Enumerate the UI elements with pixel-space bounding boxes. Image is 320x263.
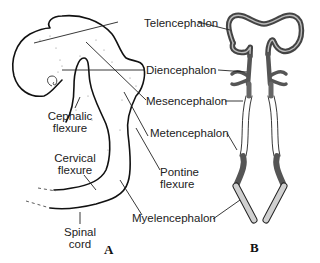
label-diencephalon: Diencephalon bbox=[146, 64, 216, 76]
label-spinal-line2: cord bbox=[60, 238, 100, 250]
panel-label-b: B bbox=[250, 240, 259, 256]
label-spinal-line1: Spinal bbox=[60, 226, 100, 238]
label-mesencephalon: Mesencephalon bbox=[146, 95, 227, 107]
label-pontine-line1: Pontine bbox=[160, 166, 199, 178]
label-myelencephalon: Myelencephalon bbox=[132, 212, 216, 224]
label-cervical-line1: Cervical bbox=[50, 152, 100, 164]
label-cephalic-flexure: Cephalic flexure bbox=[40, 110, 100, 134]
label-spinal-cord: Spinal cord bbox=[60, 226, 100, 250]
optic-vesicle bbox=[48, 76, 57, 86]
coronal-section bbox=[229, 15, 302, 220]
spinal-cord-dashes bbox=[26, 188, 56, 208]
label-metencephalon: Metencephalon bbox=[150, 127, 229, 139]
label-cephalic-line2: flexure bbox=[40, 122, 100, 134]
label-cervical-flexure: Cervical flexure bbox=[50, 152, 100, 176]
label-cephalic-line1: Cephalic bbox=[40, 110, 100, 122]
label-pontine-line2: flexure bbox=[160, 178, 199, 190]
label-pontine-flexure: Pontine flexure bbox=[160, 166, 199, 190]
label-cervical-line2: flexure bbox=[50, 164, 100, 176]
panel-label-a: A bbox=[104, 242, 113, 258]
label-telencephalon: Telencephalon bbox=[144, 17, 218, 29]
